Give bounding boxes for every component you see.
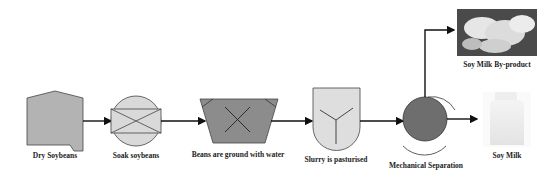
grinder-icon bbox=[200, 99, 278, 143]
label-soy-milk: Soy Milk bbox=[493, 151, 522, 160]
soak-tank-icon bbox=[111, 96, 161, 146]
soy-milk-image bbox=[483, 92, 531, 147]
label-separation: Mechanical Separation bbox=[389, 161, 463, 170]
pasteuriser-icon bbox=[313, 88, 360, 150]
label-dry-soybeans: Dry Soybeans bbox=[33, 151, 77, 160]
separator-icon bbox=[403, 97, 455, 155]
silo-icon bbox=[27, 91, 83, 151]
label-by-product: Soy Milk By-product bbox=[463, 60, 530, 69]
by-product-image bbox=[457, 9, 537, 56]
flow-arrow bbox=[425, 30, 454, 97]
label-grind: Beans are ground with water bbox=[192, 150, 285, 159]
label-soak-soybeans: Soak soybeans bbox=[113, 151, 159, 160]
label-pasturise: Slurry is pasturised bbox=[305, 155, 368, 164]
